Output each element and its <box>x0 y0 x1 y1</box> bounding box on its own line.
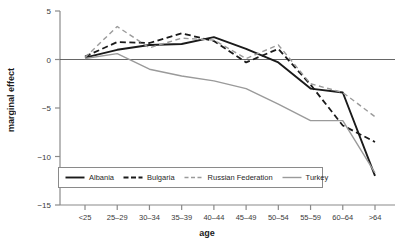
x-axis-tick-label: 45–49 <box>236 213 257 222</box>
x-axis-tick-label: 25–29 <box>107 213 128 222</box>
y-axis-tick-label: 5 <box>47 7 52 16</box>
legend-item-russian-federation[interactable]: Russian Federation <box>184 173 273 182</box>
x-axis-tick-label: 40–44 <box>203 213 224 222</box>
x-axis-tick-label: 60–64 <box>332 213 353 222</box>
chart-legend: AlbaniaBulgariaRussian FederationTurkey <box>58 167 323 188</box>
x-axis-tick-label: <25 <box>79 213 92 222</box>
x-axis-tick-label: 35–39 <box>171 213 192 222</box>
legend-label: Russian Federation <box>208 173 273 182</box>
legend-item-turkey[interactable]: Turkey <box>282 173 329 182</box>
x-axis-title: age <box>0 228 414 238</box>
legend-item-bulgaria[interactable]: Bulgaria <box>123 173 175 182</box>
legend-swatch-dashed-line-icon <box>123 173 143 182</box>
series-line-albania <box>85 37 375 176</box>
legend-label: Albania <box>89 173 114 182</box>
series-line-bulgaria <box>85 33 375 142</box>
x-axis-tick-label: 50–54 <box>268 213 289 222</box>
legend-label: Turkey <box>306 173 329 182</box>
series-line-turkey <box>85 54 375 173</box>
x-axis-tick-label: >64 <box>369 213 382 222</box>
series-line-russian-federation <box>85 27 375 117</box>
x-axis-tick-label: 55–59 <box>300 213 321 222</box>
legend-swatch-solid-line-icon <box>282 173 302 182</box>
y-axis-tick-label: 0 <box>47 56 52 65</box>
marginal-effect-line-chart: marginal effect 50−5−10−15<2525–2930–343… <box>0 0 414 245</box>
y-axis-tick-label: −10 <box>37 153 51 162</box>
y-axis-tick-label: −15 <box>37 201 51 210</box>
legend-swatch-solid-line-icon <box>65 173 85 182</box>
y-axis-tick-label: −5 <box>42 104 52 113</box>
plot-area: 50−5−10−15<2525–2930–3435–3940–4445–4950… <box>0 0 414 245</box>
legend-item-albania[interactable]: Albania <box>65 173 114 182</box>
legend-label: Bulgaria <box>147 173 175 182</box>
legend-swatch-dashed-line-icon <box>184 173 204 182</box>
x-axis-tick-label: 30–34 <box>139 213 160 222</box>
